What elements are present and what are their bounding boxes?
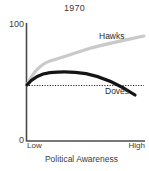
x-axis-tick-max: High — [129, 141, 145, 151]
x-axis-title: Political Awareness — [14, 154, 149, 165]
y-axis-tick-min: 0 — [4, 135, 24, 146]
x-axis-tick-min: Low — [27, 141, 42, 151]
series-line-hawks — [27, 36, 144, 85]
series-label-hawks: Hawks — [99, 31, 125, 41]
chart-container: 1970 100 0 Low High Political Awareness … — [0, 0, 149, 171]
y-axis-tick-max: 100 — [4, 19, 24, 30]
series-label-doves: Doves — [105, 86, 129, 96]
